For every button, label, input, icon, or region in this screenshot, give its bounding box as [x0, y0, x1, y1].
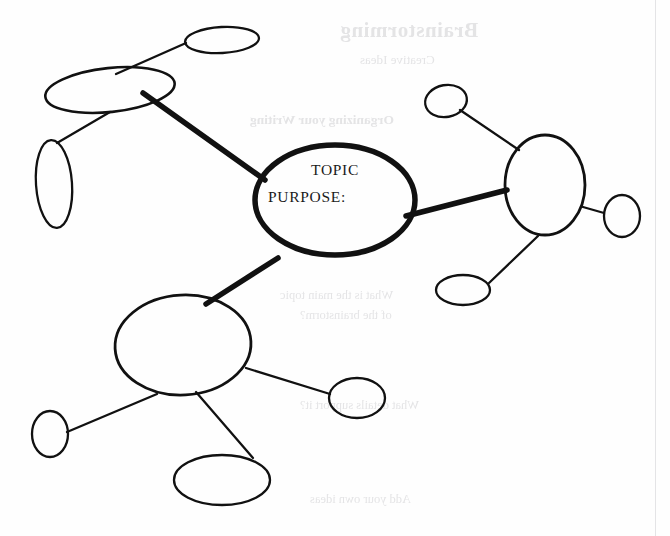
thin-connector-group: [57, 43, 604, 458]
connector-sub-node-right-top: [460, 110, 519, 150]
connector-sub-node-bottom-center: [196, 392, 253, 458]
worksheet-page: BrainstormingCreative IdeasOrganizing yo…: [0, 0, 670, 536]
connector-branch-right: [406, 190, 507, 216]
central-topic-label: TOPIC: [311, 161, 359, 179]
connector-branch-upper-left: [143, 93, 265, 180]
sub-node-bottom-right: [329, 378, 385, 418]
sub-node-bottom-left: [32, 411, 68, 457]
branch-node-bottom: [112, 292, 253, 399]
connector-branch-bottom: [206, 258, 278, 304]
connector-sub-node-upper-left-tall: [57, 112, 110, 143]
branch-node-upper-left: [43, 61, 177, 118]
sub-node-bottom-center: [174, 455, 270, 505]
mind-map-canvas: [0, 0, 670, 536]
connector-sub-node-right-bottom: [489, 236, 538, 283]
page-gutter-line: [655, 0, 656, 536]
connector-sub-node-bottom-right: [246, 368, 330, 394]
sub-node-right-east: [604, 195, 640, 237]
sub-node-upper-left-top: [184, 25, 259, 55]
sub-node-upper-left-tall: [33, 139, 75, 229]
sub-node-right-bottom: [436, 275, 490, 305]
central-purpose-label: PURPOSE:: [268, 188, 346, 206]
connector-sub-node-right-east: [583, 207, 604, 213]
node-ellipse-group: [32, 25, 640, 505]
branch-node-right: [505, 135, 585, 235]
sub-node-right-top: [423, 82, 470, 121]
connector-sub-node-bottom-left: [67, 394, 157, 432]
